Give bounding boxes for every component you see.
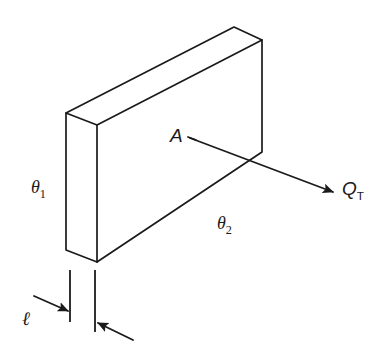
theta1-subscript: 1 <box>40 187 46 201</box>
slab-heat-flow-diagram <box>0 0 373 354</box>
heat-flow-label: QT <box>342 179 364 202</box>
heat-flow-symbol: Q <box>342 178 357 199</box>
dimension-arrow-right <box>98 323 133 340</box>
theta1-symbol: θ <box>31 177 40 197</box>
slab-top-face <box>66 27 262 125</box>
slab-solid <box>66 27 262 262</box>
theta2-subscript: 2 <box>226 223 232 237</box>
theta2-symbol: θ <box>217 213 226 233</box>
heat-flow-subscript: T <box>357 189 364 202</box>
figure-canvas: θ1 θ2 A QT ℓ <box>0 0 373 354</box>
area-label: A <box>170 126 183 145</box>
theta1-label: θ1 <box>31 178 46 200</box>
dimension-arrow-left <box>34 296 68 311</box>
slab-left-end-face <box>66 113 97 262</box>
slab-front-face <box>97 40 262 262</box>
thickness-label: ℓ <box>22 309 30 328</box>
theta2-label: θ2 <box>217 214 232 236</box>
